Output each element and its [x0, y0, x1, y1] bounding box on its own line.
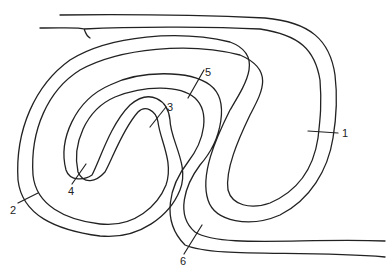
tick-4	[72, 164, 86, 184]
label-3: 3	[167, 101, 173, 113]
label-5: 5	[205, 66, 211, 78]
label-1: 1	[342, 127, 348, 139]
label-6: 6	[180, 255, 186, 267]
tick-2	[18, 193, 38, 203]
tick-5	[188, 70, 204, 98]
label-2: 2	[10, 204, 16, 216]
label-4: 4	[68, 185, 74, 197]
fold-diagram: 1 2 3 4 5 6	[0, 0, 390, 274]
